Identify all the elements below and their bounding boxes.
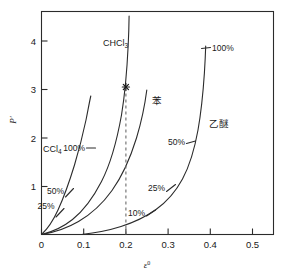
series-label-ccl4: CCl4 xyxy=(43,144,62,155)
y-tick-label-3: 3 xyxy=(31,84,36,95)
pct-label-ether-25: 25% xyxy=(148,183,165,193)
x-axis-title-superscript: 0 xyxy=(147,260,150,266)
chart-canvas: 1 2 3 4 0 0.1 0.2 0.3 0.4 0.5 ε0 P′ xyxy=(0,0,290,278)
pct-label-ccl4-50: 50% xyxy=(47,186,64,196)
pct-label-ether-100: 100% xyxy=(212,43,234,53)
y-tick-label-2: 2 xyxy=(31,133,36,144)
x-axis-title: ε0 xyxy=(144,260,151,271)
series-label-chcl3: CHCl3 xyxy=(103,38,129,49)
pct-label-ccl4-25: 25% xyxy=(37,201,54,211)
x-tick-label-0-2: 0.2 xyxy=(119,239,132,250)
marker-ticks-ccl4 xyxy=(56,148,96,217)
x-tick-label-0: 0 xyxy=(39,239,44,250)
series-label-benzene: 苯 xyxy=(152,95,162,106)
y-tick-label-4: 4 xyxy=(31,36,36,47)
y-tick-label-1: 1 xyxy=(31,181,36,192)
x-axis-ticks xyxy=(42,229,253,235)
pct-label-ether-10: 10% xyxy=(128,208,145,218)
plot-frame xyxy=(42,12,274,235)
solvent-strength-chart: 1 2 3 4 0 0.1 0.2 0.3 0.4 0.5 ε0 P′ xyxy=(0,0,290,278)
optimum-star-marker xyxy=(122,83,129,90)
pct-label-ccl4-100: 100% xyxy=(63,143,85,153)
pct-label-ether-50: 50% xyxy=(168,137,185,147)
y-axis-ticks xyxy=(42,41,48,187)
x-tick-label-0-4: 0.4 xyxy=(204,239,217,250)
series-label-diethyl-ether: 乙醚 xyxy=(209,118,229,129)
x-tick-label-0-1: 0.1 xyxy=(77,239,90,250)
curve-diethyl-ether xyxy=(82,46,206,235)
x-tick-label-0-5: 0.5 xyxy=(246,239,259,250)
y-axis-title: P′ xyxy=(8,115,18,124)
curve-ccl4 xyxy=(42,96,91,235)
x-tick-label-0-3: 0.3 xyxy=(161,239,174,250)
